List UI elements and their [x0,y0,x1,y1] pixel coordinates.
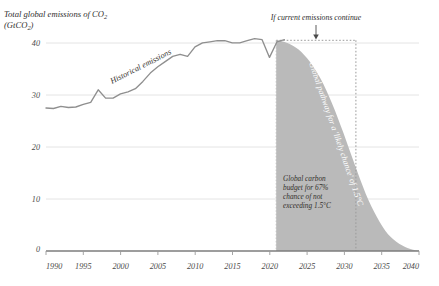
carbon-budget-note-line: exceeding 1.5°C [283,201,331,210]
down-arrow-icon-head [313,35,319,40]
chart-title-line-2: (GtCO2) [4,20,34,31]
y-tick-label: 40 [32,39,40,48]
y-tick-label: 0 [36,245,40,254]
historical-emissions-label: Historical emissions [108,47,173,86]
x-tick-label: 2010 [187,262,203,271]
x-tick-label: 2025 [299,262,315,271]
x-axis-tick-labels: 1990 1995 2000 2005 2010 2015 2020 2025 … [46,262,419,271]
x-tick-label: 1995 [75,262,91,271]
x-tick-label: 2030 [336,262,352,271]
gridlines [46,43,419,199]
x-tick-label: 2020 [262,262,278,271]
x-tick-label: 2040 [403,262,419,271]
chart-container: 40 30 20 10 0 1990 1995 2000 2005 2010 2… [0,0,439,286]
if-current-emissions-continue-annotation: If current emissions continue [270,13,362,40]
chart-title-line-1: Total global emissions of CO2 [4,9,108,20]
x-tick-label: 1990 [46,262,62,271]
x-tick-label: 2015 [224,262,240,271]
y-tick-label: 10 [32,195,40,204]
y-axis-tick-labels: 40 30 20 10 0 [31,39,40,254]
emissions-chart: 40 30 20 10 0 1990 1995 2000 2005 2010 2… [0,0,439,286]
chart-title: Total global emissions of CO2 (GtCO2) [4,9,108,31]
carbon-budget-note-line: Global carbon [283,174,326,183]
x-tick-label: 2005 [150,262,166,271]
x-tick-label: 2000 [112,262,128,271]
carbon-budget-note-line: budget for 67% [283,183,328,192]
if-current-emissions-continue-label: If current emissions continue [270,13,362,22]
carbon-budget-area [276,40,419,251]
y-tick-label: 20 [32,143,40,152]
y-tick-label: 30 [31,91,40,100]
axes [46,251,419,255]
x-tick-label: 2035 [374,262,390,271]
carbon-budget-note-line: chance of not [283,192,323,201]
